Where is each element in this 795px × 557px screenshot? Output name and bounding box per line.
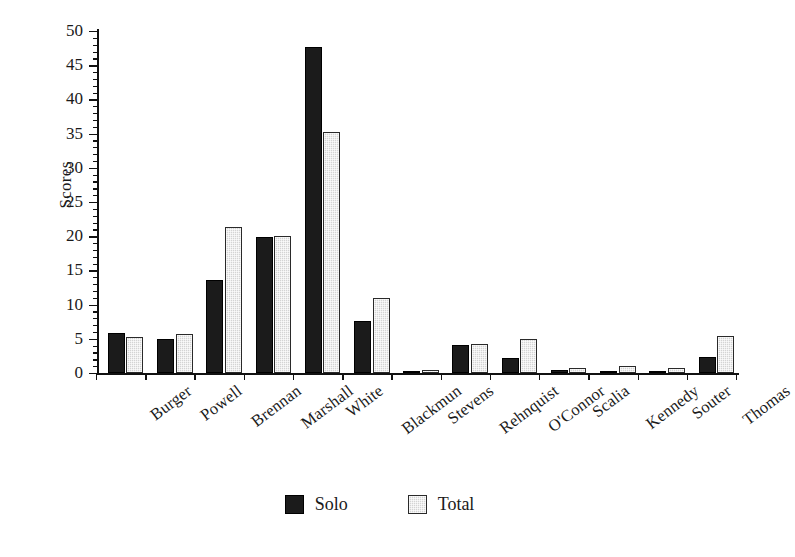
x-tick-mark <box>638 373 639 380</box>
x-axis-label-marshall: Marshall <box>297 381 357 433</box>
y-tick-mark <box>93 359 98 360</box>
y-tick-mark <box>93 264 98 265</box>
x-tick-mark <box>687 373 688 380</box>
bar-brennan-total <box>225 227 242 373</box>
x-tick-mark <box>441 373 442 380</box>
y-tick-mark <box>89 270 97 271</box>
y-tick-mark <box>93 291 98 292</box>
y-tick-mark <box>93 140 98 141</box>
y-tick-label: 15 <box>66 260 83 280</box>
y-tick-mark <box>93 298 98 299</box>
y-tick-mark <box>93 175 98 176</box>
x-axis-label-white: White <box>343 381 388 422</box>
x-axis-label-souter: Souter <box>688 381 735 424</box>
bar-oconnor-total <box>520 339 537 373</box>
y-tick-label: 20 <box>66 226 83 246</box>
bars-group <box>98 31 738 373</box>
x-axis-line <box>96 373 739 375</box>
y-tick-mark <box>93 229 98 230</box>
y-tick-mark <box>89 236 97 237</box>
x-axis-label-powell: Powell <box>196 381 246 425</box>
y-tick-mark <box>93 223 98 224</box>
y-tick-mark <box>93 93 98 94</box>
y-tick-mark <box>93 120 98 121</box>
chart-legend: Solo Total <box>0 494 759 515</box>
y-tick-mark <box>93 346 98 347</box>
x-axis-label-rehnquist: Rehnquist <box>496 381 563 438</box>
y-tick-mark <box>93 45 98 46</box>
y-tick-mark <box>89 99 97 100</box>
x-axis-label-brennan: Brennan <box>247 381 305 431</box>
x-axis-label-stevens: Stevens <box>443 381 497 429</box>
bar-souter-total <box>668 368 685 373</box>
bar-blackmun-total <box>373 298 390 373</box>
x-tick-mark <box>588 373 589 380</box>
y-tick-label: 35 <box>66 124 83 144</box>
x-axis-label-oconnor: O'Connor <box>545 381 610 437</box>
y-tick-mark <box>89 305 97 306</box>
y-tick-mark <box>93 106 98 107</box>
y-tick-mark <box>93 154 98 155</box>
y-tick-mark <box>93 58 98 59</box>
bar-souter-solo <box>649 371 666 373</box>
y-tick-mark <box>89 339 97 340</box>
y-tick-mark <box>93 243 98 244</box>
bar-marshall-total <box>274 236 291 373</box>
y-tick-mark <box>89 202 97 203</box>
y-tick-label: 40 <box>66 89 83 109</box>
bar-kennedy-total <box>619 366 636 373</box>
legend-swatch-solo-icon <box>285 495 304 514</box>
y-tick-mark <box>93 127 98 128</box>
legend-label-solo: Solo <box>315 494 348 515</box>
y-tick-mark <box>93 38 98 39</box>
y-tick-mark <box>93 325 98 326</box>
bar-burger-solo <box>108 333 125 373</box>
y-tick-mark <box>93 52 98 53</box>
y-tick-mark <box>93 86 98 87</box>
x-axis-label-thomas: Thomas <box>739 381 794 430</box>
y-tick-mark <box>93 311 98 312</box>
y-tick-mark <box>89 65 97 66</box>
bar-stevens-solo <box>403 371 420 373</box>
x-tick-mark <box>145 373 146 380</box>
legend-label-total: Total <box>438 494 475 515</box>
bar-rehnquist-solo <box>452 345 469 373</box>
y-tick-label: 50 <box>66 21 83 41</box>
y-tick-mark <box>93 250 98 251</box>
y-tick-mark <box>93 277 98 278</box>
bar-rehnquist-total <box>471 344 488 373</box>
y-tick-label: 30 <box>66 158 83 178</box>
x-tick-mark <box>194 373 195 380</box>
x-tick-mark <box>391 373 392 380</box>
x-tick-mark <box>244 373 245 380</box>
bar-stevens-total <box>422 370 439 373</box>
y-tick-label: 5 <box>75 329 84 349</box>
legend-item-total[interactable]: Total <box>408 494 475 515</box>
x-axis-label-kennedy: Kennedy <box>642 381 703 434</box>
y-tick-mark <box>93 181 98 182</box>
bar-powell-solo <box>157 339 174 373</box>
y-tick-mark <box>93 216 98 217</box>
bar-scalia-solo <box>551 370 568 373</box>
y-tick-mark <box>93 366 98 367</box>
x-tick-mark <box>539 373 540 380</box>
y-tick-mark <box>93 318 98 319</box>
y-tick-mark <box>93 195 98 196</box>
bar-white-solo <box>305 47 322 373</box>
y-tick-mark <box>89 134 97 135</box>
bar-thomas-total <box>717 336 734 373</box>
legend-swatch-total-icon <box>408 495 427 514</box>
y-tick-mark <box>93 79 98 80</box>
x-tick-mark <box>342 373 343 380</box>
x-tick-mark <box>96 373 97 380</box>
bar-brennan-solo <box>206 280 223 373</box>
y-tick-mark <box>93 72 98 73</box>
y-tick-label: 25 <box>66 192 83 212</box>
legend-item-solo[interactable]: Solo <box>285 494 348 515</box>
x-axis-label-blackmun: Blackmun <box>398 381 465 439</box>
y-tick-mark <box>89 168 97 169</box>
y-tick-mark <box>93 257 98 258</box>
y-tick-mark <box>93 332 98 333</box>
y-tick-mark <box>93 352 98 353</box>
